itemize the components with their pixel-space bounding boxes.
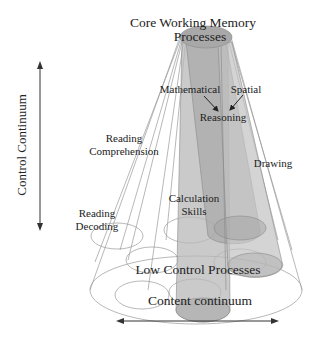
axis-label-control-continuum: Control Continuum — [14, 94, 29, 195]
label-calculation-1: Calculation — [169, 192, 220, 204]
label-reading-comprehension-1: Reading — [106, 132, 143, 144]
label-reading-decoding-1: Reading — [79, 207, 116, 219]
label-calculation-2: Skills — [181, 205, 206, 217]
axis-label-content-continuum: Content continuum — [148, 293, 252, 308]
label-mathematical: Mathematical — [160, 83, 220, 95]
label-reading-decoding-2: Decoding — [76, 220, 119, 232]
core-title-line2: Processes — [174, 29, 227, 44]
label-drawing: Drawing — [254, 157, 293, 169]
working-memory-cone-diagram: Core Working Memory Processes Mathematic… — [0, 0, 310, 342]
label-reading-comprehension-2: Comprehension — [89, 145, 159, 157]
label-spatial: Spatial — [231, 83, 262, 95]
core-title-line1: Core Working Memory — [130, 15, 256, 30]
label-reasoning: Reasoning — [200, 111, 247, 123]
label-low-control: Low Control Processes — [135, 262, 260, 277]
